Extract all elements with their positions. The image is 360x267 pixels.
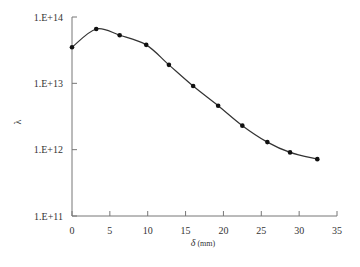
- x-tick-label: 20: [218, 225, 228, 236]
- x-tick-label: 35: [332, 225, 342, 236]
- y-axis-title: λ: [12, 119, 23, 124]
- x-axis: 05101520253035: [70, 211, 343, 236]
- data-point-marker: [216, 103, 221, 108]
- x-tick-label: 25: [256, 225, 266, 236]
- y-tick-label: 1.E+11: [34, 211, 63, 222]
- data-curve: [72, 29, 317, 160]
- data-point-marker: [70, 45, 75, 50]
- x-tick-label: 5: [107, 225, 112, 236]
- data-point-marker: [315, 157, 320, 162]
- y-axis: 1.E+111.E+121.E+131.E+14: [34, 12, 77, 222]
- x-tick-label: 0: [70, 225, 75, 236]
- data-point-marker: [94, 27, 99, 32]
- data-point-marker: [240, 123, 245, 128]
- x-axis-title: δ(mm): [191, 237, 216, 248]
- x-axis-title-symbol: δ: [191, 237, 196, 248]
- y-tick-label: 1.E+12: [34, 144, 63, 155]
- x-axis-title-unit: (mm): [197, 239, 215, 248]
- y-tick-label: 1.E+13: [34, 78, 63, 89]
- y-tick-label: 1.E+14: [34, 12, 63, 23]
- data-point-marker: [288, 150, 293, 155]
- data-point-marker: [117, 33, 122, 38]
- data-point-marker: [191, 84, 196, 89]
- data-markers: [70, 27, 320, 162]
- x-tick-label: 30: [294, 225, 304, 236]
- data-point-marker: [265, 140, 270, 145]
- data-point-marker: [167, 63, 172, 68]
- data-point-marker: [144, 43, 149, 48]
- chart: 1.E+111.E+121.E+131.E+14 05101520253035 …: [0, 0, 360, 267]
- x-tick-label: 10: [143, 225, 153, 236]
- x-tick-label: 15: [181, 225, 191, 236]
